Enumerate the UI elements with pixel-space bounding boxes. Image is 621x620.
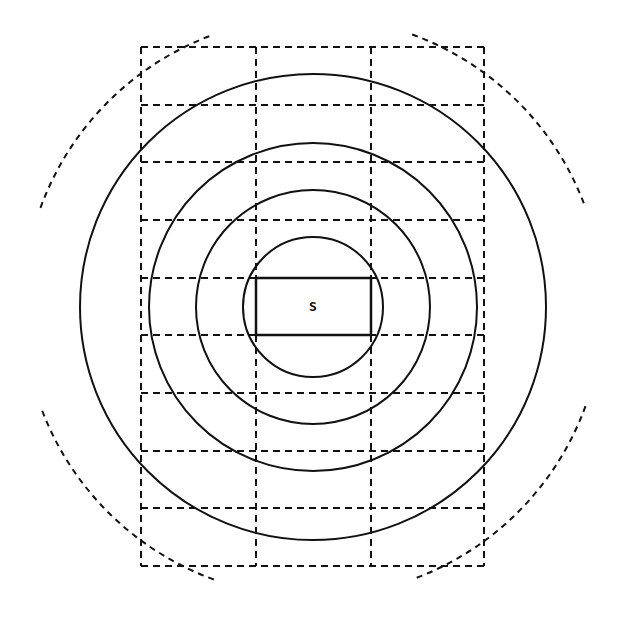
outer-arc-top-right	[412, 35, 585, 208]
source-label: S	[309, 300, 317, 313]
outer-arc-top-left	[41, 35, 214, 208]
outer-arc-bottom-left	[41, 406, 214, 579]
outer-arc-bottom-right	[412, 406, 585, 579]
